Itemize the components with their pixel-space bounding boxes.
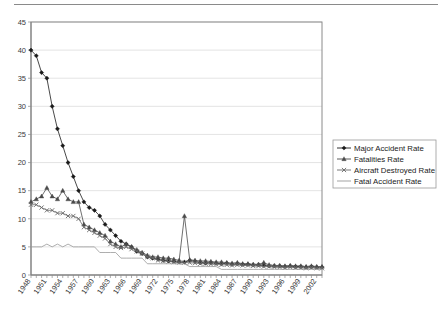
data-point-x: [39, 205, 43, 209]
y-tick-label: 45: [18, 18, 26, 27]
chart-container: 051015202530354045 194819511954195719601…: [0, 0, 440, 314]
line-chart: 051015202530354045 194819511954195719601…: [0, 0, 440, 314]
x-tick-label: 1963: [95, 277, 112, 296]
y-tick-label: 30: [18, 102, 26, 111]
x-tick-label: 1960: [79, 277, 96, 296]
data-point-triangle: [34, 197, 38, 201]
x-tick-label: 1954: [47, 277, 64, 296]
y-tick-label: 35: [18, 74, 26, 83]
x-tick-label: 1951: [32, 277, 49, 296]
data-point-triangle: [45, 186, 49, 190]
x-tick-label: 1972: [143, 277, 160, 296]
x-tick-label: 1975: [159, 277, 176, 296]
gridlines: [31, 22, 322, 275]
data-point-triangle: [262, 260, 266, 264]
x-axis-labels: 1948195119541957196019631966196919721975…: [16, 277, 319, 296]
y-tick-label: 25: [18, 130, 26, 139]
y-tick-label: 40: [18, 46, 26, 55]
legend-label: Major Accident Rate: [354, 144, 424, 153]
y-tick-label: 15: [18, 186, 26, 195]
x-tick-label: 1996: [270, 277, 287, 296]
x-tick-label: 1981: [190, 277, 207, 296]
legend-label: Fatal Accident Rate: [354, 177, 422, 186]
legend-label: Fatalities Rate: [354, 155, 404, 164]
data-point-triangle: [66, 197, 70, 201]
x-tick-label: 1969: [127, 277, 144, 296]
legend-label: Aircraft Destroyed Rate: [354, 166, 435, 175]
series-line-0: [31, 50, 322, 267]
plot-area-border: [31, 22, 322, 275]
x-tick-label: 1993: [254, 277, 271, 296]
x-tick-label: 2002: [301, 277, 318, 296]
x-tick-label: 1957: [63, 277, 80, 296]
y-tick-label: 20: [18, 158, 26, 167]
data-point-diamond: [50, 104, 54, 108]
data-point-diamond: [77, 189, 81, 193]
x-tick-label: 1978: [174, 277, 191, 296]
chart-legend[interactable]: Major Accident RateFatalities RateAircra…: [333, 140, 436, 188]
plot-frame: [31, 22, 322, 275]
x-tick-label: 1984: [206, 277, 223, 296]
y-axis-labels: 051015202530354045: [18, 18, 31, 280]
data-point-triangle: [55, 197, 59, 201]
series-1: [29, 186, 324, 269]
data-series: [29, 48, 324, 270]
series-0: [29, 48, 324, 269]
data-point-diamond: [55, 127, 59, 131]
data-point-diamond: [71, 175, 75, 179]
data-point-triangle: [182, 214, 186, 218]
series-line-1: [31, 188, 322, 267]
data-point-diamond: [66, 160, 70, 164]
y-tick-label: 5: [22, 243, 26, 252]
x-tick-label: 1948: [16, 277, 33, 296]
x-tick-label: 1987: [222, 277, 239, 296]
x-tick-label: 1999: [286, 277, 303, 296]
x-tick-label: 1966: [111, 277, 128, 296]
data-point-triangle: [39, 194, 43, 198]
y-tick-label: 10: [18, 215, 26, 224]
x-tick-label: 1990: [238, 277, 255, 296]
data-point-diamond: [61, 144, 65, 148]
